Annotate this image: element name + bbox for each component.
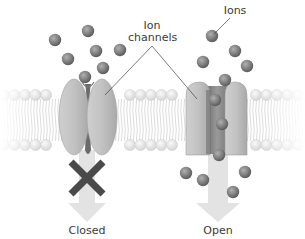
ion [209,94,221,106]
label-closed: Closed [62,225,112,237]
ion [62,53,74,65]
ion [227,186,239,198]
lipid-head [271,139,282,150]
lipid-head [124,139,135,150]
lipid-head [156,89,167,100]
leader-line-left-channel [105,46,152,95]
lipid-head [261,89,272,100]
lipid-head [9,89,20,100]
ion [197,174,209,186]
ion [90,45,102,57]
label-ions: Ions [220,5,250,17]
ion [216,118,228,130]
lipid-head [261,139,272,150]
ion [79,71,91,83]
lipid-head [292,139,303,150]
lipid-head [166,139,177,150]
ion [49,34,61,46]
lipid-heads-bottom [0,139,304,150]
leader-line-ions [214,18,230,34]
ion [213,149,225,161]
ion [97,62,109,74]
lipid-head [40,89,51,100]
lipid-head [19,89,30,100]
ion [114,44,126,56]
lipid-head [19,139,30,150]
lipid-head [292,89,303,100]
lipid-head [271,89,282,100]
ion [82,25,94,37]
lipid-head [0,139,10,150]
open-ion-channel [186,82,247,155]
label-ion-channels: Ion channels [128,20,176,44]
label-open: Open [196,225,240,237]
lipid-head [135,89,146,100]
closed-ion-channel [59,79,117,155]
lipid-head [135,139,146,150]
ion [239,166,251,178]
lipid-head [250,89,261,100]
ion [229,45,241,57]
lipid-head [30,89,41,100]
label-ion-channels-line2: channels [128,32,176,44]
lipid-head [166,89,177,100]
lipid-heads-top [0,89,304,100]
ion [241,60,253,72]
lipid-head [282,139,293,150]
lipid-tails [0,99,305,141]
cell-membrane [0,89,305,150]
lipid-head [9,139,20,150]
lipid-head [250,139,261,150]
lipid-head [0,89,10,100]
lipid-head [30,139,41,150]
ion [219,74,231,86]
lipid-head [156,139,167,150]
lipid-head [40,139,51,150]
lipid-head [145,89,156,100]
ion [180,167,192,179]
lipid-head [145,139,156,150]
lipid-head [124,89,135,100]
lipid-head [282,89,293,100]
ion [197,56,209,68]
